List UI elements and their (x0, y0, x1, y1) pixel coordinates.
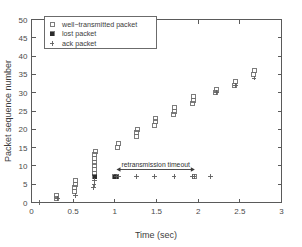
x-tick-label: 2 (196, 207, 201, 216)
y-axis-tick-labels: 05101520253035404550 (19, 16, 28, 208)
y-tick-label: 35 (19, 70, 28, 79)
legend-label: well−transmitted packet (61, 20, 137, 29)
x-axis-tick-labels: 00.511.522.53 (29, 207, 284, 216)
legend-label: lost packet (62, 29, 96, 38)
y-tick-label: 30 (19, 89, 28, 98)
y-tick-label: 25 (19, 107, 28, 116)
y-tick-label: 45 (19, 34, 28, 43)
x-tick-label: 2.5 (234, 207, 246, 216)
y-tick-label: 50 (19, 16, 28, 25)
y-tick-label: 5 (23, 180, 28, 189)
y-tick-label: 20 (19, 125, 28, 134)
chart-figure: 00.511.522.53 05101520253035404550 Time … (0, 0, 302, 247)
legend-label: ack packet (62, 39, 96, 48)
y-tick-label: 15 (19, 144, 28, 153)
x-axis-title: Time (sec) (135, 230, 177, 240)
x-tick-label: 1.5 (151, 207, 163, 216)
y-tick-label: 10 (19, 162, 28, 171)
x-tick-label: 1 (113, 207, 118, 216)
annotation-label: retransmission timeout (121, 161, 189, 168)
x-tick-label: 0 (29, 207, 34, 216)
y-axis-title: Packet sequence number (3, 60, 13, 162)
legend-marker-filled-square (50, 32, 54, 36)
x-tick-label: 0.5 (68, 207, 80, 216)
packet-sequence-scatter-plot: 00.511.522.53 05101520253035404550 Time … (0, 0, 302, 247)
legend: well−transmitted packetlost packetack pa… (45, 17, 157, 49)
y-tick-label: 0 (23, 199, 28, 208)
y-tick-label: 40 (19, 52, 28, 61)
x-tick-label: 3 (279, 207, 284, 216)
